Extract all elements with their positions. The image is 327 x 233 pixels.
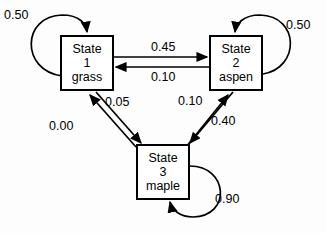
label-edge-state2-to-state3: 0.40 bbox=[211, 114, 235, 128]
label-edge-state1-to-state3: 0.05 bbox=[105, 95, 129, 109]
state-1-title: State bbox=[72, 42, 101, 56]
label-self-loop-state2: 0.50 bbox=[286, 18, 310, 32]
state-2-number: 2 bbox=[233, 56, 240, 70]
label-self-loop-state3: 0.90 bbox=[215, 192, 239, 206]
state-2-name: aspen bbox=[219, 70, 253, 84]
label-edge-state1-to-state2: 0.45 bbox=[151, 40, 175, 54]
state-node-3[interactable]: State 3 maple bbox=[136, 144, 190, 200]
state-3-title: State bbox=[148, 151, 177, 165]
state-3-number: 3 bbox=[160, 165, 167, 179]
label-self-loop-state1: 0.50 bbox=[4, 8, 28, 22]
label-edge-state2-to-state1: 0.10 bbox=[151, 70, 175, 84]
state-node-1[interactable]: State 1 grass bbox=[60, 35, 114, 91]
state-1-name: grass bbox=[72, 70, 103, 84]
state-1-number: 1 bbox=[84, 56, 91, 70]
label-edge-state3-to-state2: 0.10 bbox=[178, 94, 202, 108]
state-3-name: maple bbox=[146, 179, 180, 193]
state-node-2[interactable]: State 2 aspen bbox=[209, 35, 263, 91]
state-2-title: State bbox=[221, 42, 250, 56]
label-edge-state3-to-state1: 0.00 bbox=[49, 119, 73, 133]
state-transition-diagram: State 1 grass State 2 aspen State 3 mapl… bbox=[0, 0, 327, 233]
